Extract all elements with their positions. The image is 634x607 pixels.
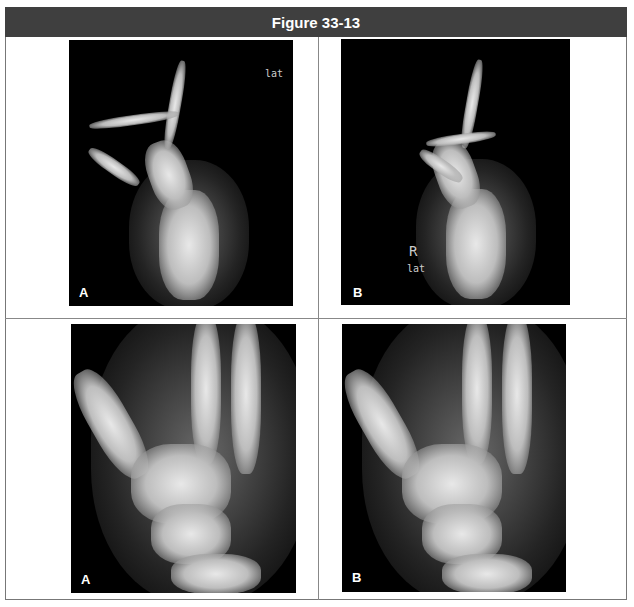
horizontal-divider bbox=[5, 318, 627, 319]
figure-title: Figure 33-13 bbox=[5, 7, 627, 37]
view-marker: lat bbox=[407, 263, 425, 274]
xray-image-bottom-left: A bbox=[71, 324, 296, 593]
panel-label: A bbox=[79, 285, 88, 300]
panel-label: B bbox=[352, 570, 361, 585]
panel-label: B bbox=[353, 285, 362, 300]
panel-label: A bbox=[81, 572, 90, 587]
xray-image-top-left: lat A bbox=[69, 40, 293, 306]
xray-image-bottom-right: B bbox=[342, 324, 566, 592]
side-marker: R bbox=[409, 243, 417, 259]
xray-image-top-right: R lat B bbox=[341, 39, 570, 305]
view-marker: lat bbox=[265, 68, 283, 79]
